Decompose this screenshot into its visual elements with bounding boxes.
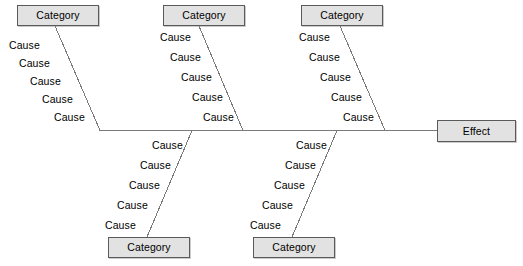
cause-label-top-3-4[interactable]: Cause xyxy=(331,92,362,103)
fishbone-diagram: CategoryCauseCauseCauseCauseCauseCategor… xyxy=(0,0,523,266)
category-box-top-2-label: Category xyxy=(182,10,225,21)
category-box-top-3[interactable]: Category xyxy=(301,5,383,26)
category-box-bottom-1-label: Category xyxy=(127,242,170,253)
cause-label-bottom-2-3[interactable]: Cause xyxy=(274,180,305,191)
cause-label-bottom-2-4[interactable]: Cause xyxy=(262,200,293,211)
category-box-bottom-2[interactable]: Category xyxy=(253,237,335,258)
category-box-bottom-1[interactable]: Category xyxy=(108,237,190,258)
cause-label-bottom-1-2[interactable]: Cause xyxy=(140,160,171,171)
cause-label-top-2-3[interactable]: Cause xyxy=(181,72,212,83)
cause-label-top-2-4[interactable]: Cause xyxy=(192,92,223,103)
cause-label-top-1-5[interactable]: Cause xyxy=(54,112,85,123)
category-box-top-1[interactable]: Category xyxy=(17,5,99,26)
cause-label-top-2-5[interactable]: Cause xyxy=(203,112,234,123)
cause-label-bottom-1-1[interactable]: Cause xyxy=(152,140,183,151)
category-box-bottom-2-label: Category xyxy=(272,242,315,253)
cause-label-top-3-1[interactable]: Cause xyxy=(299,32,330,43)
cause-label-top-1-3[interactable]: Cause xyxy=(30,76,61,87)
cause-label-bottom-2-2[interactable]: Cause xyxy=(285,160,316,171)
cause-label-top-1-2[interactable]: Cause xyxy=(19,58,50,69)
cause-label-bottom-2-5[interactable]: Cause xyxy=(250,220,281,231)
category-box-top-2[interactable]: Category xyxy=(163,5,245,26)
cause-label-bottom-2-1[interactable]: Cause xyxy=(296,140,327,151)
category-box-top-1-label: Category xyxy=(36,10,79,21)
category-box-top-3-label: Category xyxy=(320,10,363,21)
cause-label-bottom-1-3[interactable]: Cause xyxy=(129,180,160,191)
effect-box[interactable]: Effect xyxy=(437,120,516,142)
effect-box-label: Effect xyxy=(463,126,490,137)
cause-label-bottom-1-4[interactable]: Cause xyxy=(117,200,148,211)
cause-label-top-3-2[interactable]: Cause xyxy=(309,52,340,63)
cause-label-top-3-5[interactable]: Cause xyxy=(343,112,374,123)
cause-label-top-3-3[interactable]: Cause xyxy=(320,72,351,83)
cause-label-top-1-1[interactable]: Cause xyxy=(9,40,40,51)
cause-label-top-1-4[interactable]: Cause xyxy=(42,94,73,105)
cause-label-top-2-1[interactable]: Cause xyxy=(160,32,191,43)
cause-label-bottom-1-5[interactable]: Cause xyxy=(105,220,136,231)
cause-label-top-2-2[interactable]: Cause xyxy=(170,52,201,63)
